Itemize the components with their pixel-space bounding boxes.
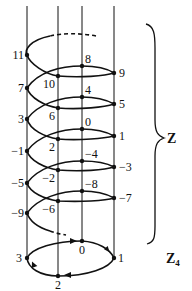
point-label: −7 bbox=[119, 191, 132, 205]
circle-point-label: 0 bbox=[79, 243, 85, 257]
point-label: 9 bbox=[119, 66, 125, 80]
vertical-guide-lines bbox=[27, 6, 114, 276]
point-label: −5 bbox=[11, 176, 24, 190]
point-label: 4 bbox=[85, 83, 91, 97]
point-label: −4 bbox=[85, 147, 98, 161]
point-label: 7 bbox=[18, 81, 24, 95]
point-label: 5 bbox=[119, 97, 125, 111]
point-label: 3 bbox=[18, 112, 24, 126]
point-label: −9 bbox=[11, 206, 24, 220]
point-label: −8 bbox=[85, 177, 98, 191]
point-label: −6 bbox=[42, 202, 55, 216]
circle-point-label: 1 bbox=[118, 251, 124, 265]
point-label: 10 bbox=[43, 77, 55, 91]
point-label: 1 bbox=[119, 129, 125, 143]
circle-point-label: 2 bbox=[55, 278, 61, 291]
point-label: −3 bbox=[119, 160, 132, 174]
circle-label-Z4: Z4 bbox=[166, 251, 180, 268]
point-label: 8 bbox=[85, 52, 91, 66]
arrow-icon bbox=[64, 272, 71, 278]
helix-label-Z: Z bbox=[167, 131, 176, 146]
brace-icon bbox=[146, 24, 164, 244]
helix-dots bbox=[25, 53, 116, 278]
point-label: 0 bbox=[85, 115, 91, 129]
point-label: 6 bbox=[49, 109, 55, 123]
circle-point-label: 3 bbox=[16, 251, 22, 265]
arrow-icon bbox=[70, 238, 77, 244]
point-label: 11 bbox=[12, 48, 24, 62]
point-label: 2 bbox=[49, 140, 55, 154]
helix-curve bbox=[26, 34, 114, 235]
point-label: −1 bbox=[11, 144, 24, 158]
point-label: −2 bbox=[42, 171, 55, 185]
helix-diagram: 11 10 9 8 7 6 5 4 3 2 1 0 −1 −2 −3 −4 −5… bbox=[0, 0, 192, 291]
base-circle bbox=[27, 241, 114, 276]
